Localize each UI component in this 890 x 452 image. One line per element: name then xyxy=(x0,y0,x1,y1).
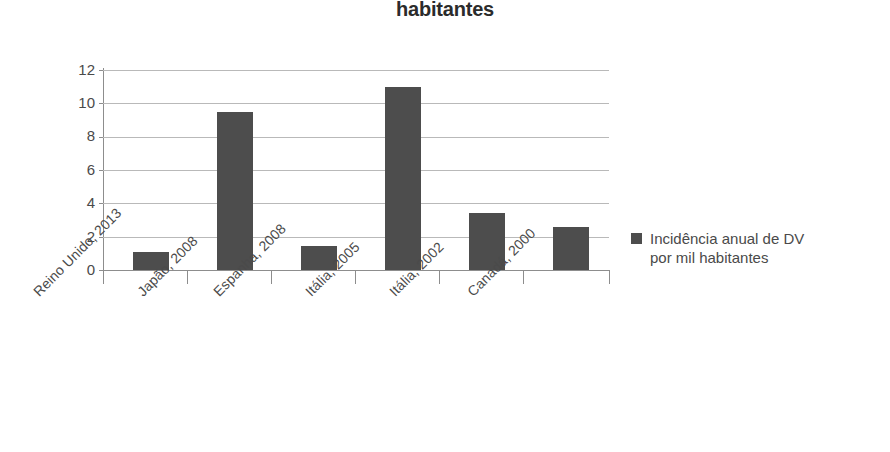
bar-italia-2005[interactable] xyxy=(385,87,421,270)
x-axis-tick-1 xyxy=(187,271,188,284)
x-axis-tick-2 xyxy=(271,271,272,284)
chart-title: habitantes xyxy=(0,0,890,22)
x-axis-tick-4 xyxy=(439,271,440,284)
bar-canada-2000[interactable] xyxy=(553,227,589,270)
x-axis-tick-6 xyxy=(609,271,610,284)
legend-label-line-2: por mil habitantes xyxy=(650,248,835,267)
gridline-8 xyxy=(103,137,609,138)
gridline-6 xyxy=(103,170,609,171)
y-tick-label-6: 6 xyxy=(55,162,95,177)
gridline-4 xyxy=(103,203,609,204)
legend-label: Incidência anual de DV por mil habitante… xyxy=(650,229,835,267)
x-axis-tick-3 xyxy=(355,271,356,284)
y-tick-label-4: 4 xyxy=(55,195,95,210)
gridline-12 xyxy=(103,70,609,71)
x-axis-line xyxy=(103,270,610,271)
y-tick-label-12: 12 xyxy=(55,62,95,77)
bar-japao-2008[interactable] xyxy=(217,112,253,270)
chart-legend: Incidência anual de DV por mil habitante… xyxy=(631,229,835,267)
y-tick-label-10: 10 xyxy=(55,95,95,110)
x-axis-tick-0 xyxy=(103,271,104,284)
gridline-10 xyxy=(103,103,609,104)
legend-label-line-1: Incidência anual de DV xyxy=(650,229,835,248)
x-axis-tick-5 xyxy=(523,271,524,284)
y-tick-label-8: 8 xyxy=(55,128,95,143)
legend-color-swatch xyxy=(631,233,642,244)
